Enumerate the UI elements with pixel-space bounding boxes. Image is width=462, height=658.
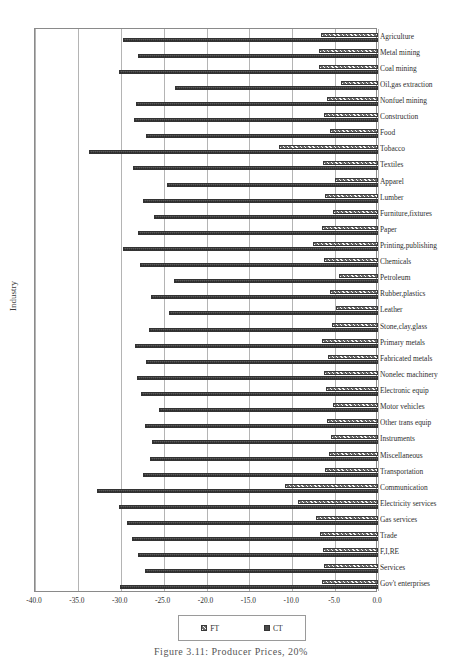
bar-ct [136,102,378,106]
bar-ct [137,376,378,380]
bar-ct [154,215,378,219]
legend-item-ft: FT [201,624,219,633]
category-label: Tobacco [380,145,462,152]
bar-ft [331,435,378,439]
bar-ct [152,440,378,444]
bar-ct [143,199,378,203]
category-label: Services [380,564,462,571]
bar-ft [324,258,378,262]
category-label: Nonelec machinery [380,371,462,378]
bar-ft [327,97,378,101]
category-label: Gov't enterprises [380,580,462,587]
y-axis-title: Industry [2,0,24,592]
bar-ct [123,38,378,42]
bar-ft [324,371,378,375]
category-label: Transportation [380,468,462,475]
category-label: Rubber,plastics [380,290,462,297]
bar-ft [320,532,378,536]
bar-ct [119,70,378,74]
plot-area [34,28,377,592]
x-tick-label: -10.0 [271,596,311,605]
bar-ct [141,392,378,396]
bar-ct [145,569,378,573]
bar-ft [321,33,378,37]
category-label: Apparel [380,178,462,185]
figure-caption: Figure 3.11: Producer Prices, 20% [0,646,462,658]
bar-ft [327,419,378,423]
bar-ft [322,580,378,584]
bar-ct [143,473,378,477]
bar-ct [146,360,378,364]
bar-ft [341,81,378,85]
legend-item-ct: CT [264,624,283,633]
category-label: Metal mining [380,49,462,56]
category-label: Nonfuel mining [380,97,462,104]
category-label: Furniture,fixtures [380,210,462,217]
x-tick-label: 0.0 [357,596,397,605]
bar-ct [119,505,378,509]
bar-ft [298,500,378,504]
bar-ct [140,263,378,267]
category-label: Communication [380,484,462,491]
bar-ct [169,311,378,315]
bar-ct [138,553,378,557]
bar-ft [323,548,378,552]
bar-ft [313,242,378,246]
bar-ct [149,328,378,332]
bar-ct [123,247,378,251]
y-axis-title-text: Industry [8,281,18,311]
bar-ct [120,585,378,589]
category-label: Trade [380,532,462,539]
bar-ft [319,49,378,53]
bar-ft [325,194,378,198]
bar-ft [316,516,378,520]
bar-ct [133,166,378,170]
category-label: Other trans equip [380,419,462,426]
bar-ft [324,113,378,117]
bar-ft [336,306,378,310]
category-label: Petroleum [380,274,462,281]
legend-swatch-ft-icon [201,625,207,631]
category-label: Primary metals [380,339,462,346]
category-label: Electronic equip [380,387,462,394]
bar-ft [339,274,378,278]
category-label: Chemicals [380,258,462,265]
gridline [378,29,379,591]
bar-ft [328,355,378,359]
bar-ct [134,118,378,122]
bar-ft [329,452,378,456]
bar-ct [150,457,378,461]
bar-ft [279,145,378,149]
bar-ct [135,344,378,348]
bar-ct [146,134,378,138]
x-tick-label: -40.0 [14,596,54,605]
x-tick-label: -20.0 [186,596,226,605]
bar-ct [151,295,378,299]
category-label: Food [380,129,462,136]
category-label: Construction [380,113,462,120]
category-label: Oil,gas extraction [380,81,462,88]
x-tick-label: -5.0 [314,596,354,605]
bar-ft [319,65,378,69]
category-label: Fabricated metals [380,355,462,362]
bar-ft [330,290,378,294]
legend-label-ct: CT [273,624,283,633]
bar-ct [138,231,378,235]
bar-ct [145,424,378,428]
bar-ft [326,387,378,391]
category-label: Printing,publishing [380,242,462,249]
category-label: Electricity services [380,500,462,507]
bar-ft [330,129,378,133]
category-label: F,I,RE [380,548,462,555]
x-tick-label: -25.0 [143,596,183,605]
bar-ft [333,210,378,214]
x-tick-label: -30.0 [100,596,140,605]
bar-ft [332,323,378,327]
x-tick-label: -35.0 [57,596,97,605]
bar-ct [127,521,378,525]
category-label: Textiles [380,161,462,168]
category-label: Gas services [380,516,462,523]
legend-label-ft: FT [210,624,219,633]
category-label: Miscellaneous [380,452,462,459]
x-tick-label: -15.0 [228,596,268,605]
